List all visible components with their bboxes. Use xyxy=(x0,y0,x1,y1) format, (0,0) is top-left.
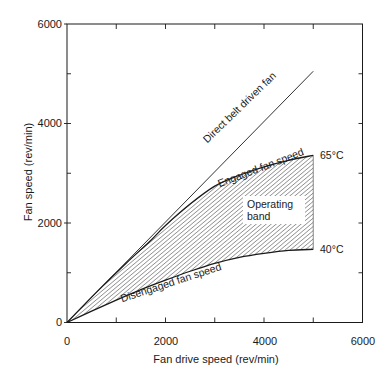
y-tick-0: 0 xyxy=(56,316,62,328)
y-tick-4000: 4000 xyxy=(38,117,62,129)
y-tick-6000: 6000 xyxy=(38,18,62,30)
operating-band-label-2: band xyxy=(247,210,271,222)
operating-band-label-1: Operating xyxy=(247,198,293,210)
y-tick-2000: 2000 xyxy=(38,217,62,229)
fan-speed-chart: 6000 4000 2000 0 0 2000 4000 6000 Fan dr… xyxy=(0,0,390,378)
direct-belt-label: Direct belt driven fan xyxy=(200,69,278,145)
y-axis-title: Fan speed (rev/min) xyxy=(22,123,34,221)
temp-65-label: 65°C xyxy=(320,149,344,161)
operating-band-area xyxy=(67,155,313,322)
x-tick-0: 0 xyxy=(64,335,70,347)
x-tick-2000: 2000 xyxy=(154,335,178,347)
temp-40-label: 40°C xyxy=(320,243,344,255)
x-axis-title: Fan drive speed (rev/min) xyxy=(153,353,278,365)
x-tick-4000: 4000 xyxy=(253,335,277,347)
x-tick-6000: 6000 xyxy=(351,335,375,347)
